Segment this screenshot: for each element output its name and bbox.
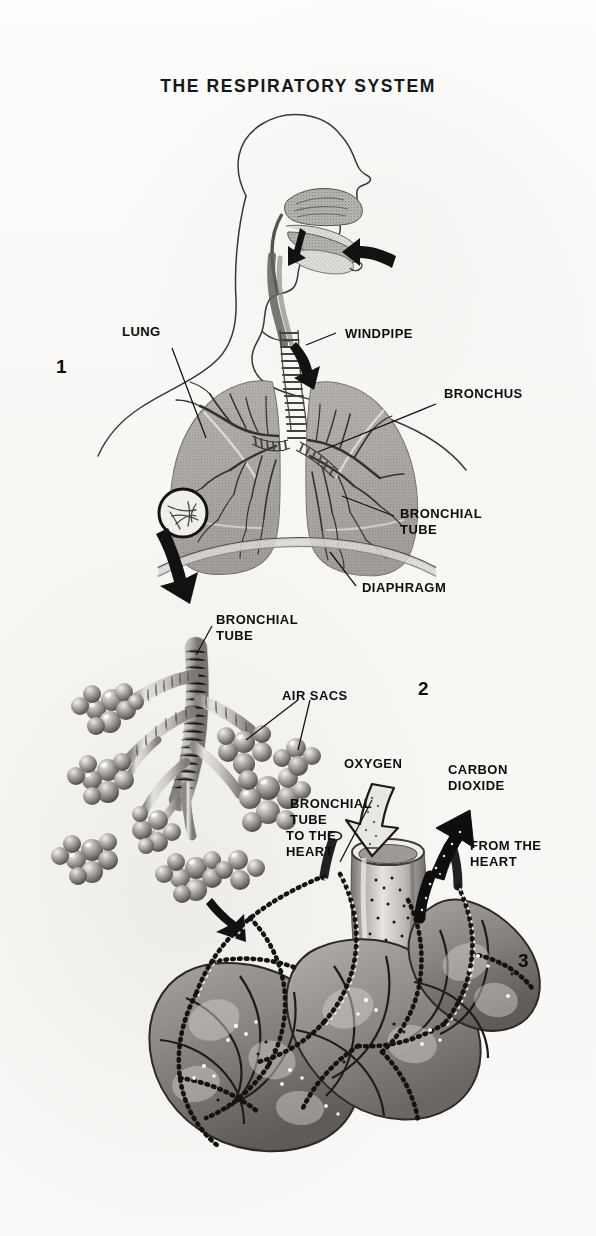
label-to-the-heart: TO THE HEART — [286, 828, 336, 859]
leader-windpipe — [306, 333, 336, 345]
label-carbon-dioxide: CARBON DIOXIDE — [448, 762, 508, 793]
label-bronchial-tube-panel3: BRONCHIAL TUBE — [290, 796, 372, 827]
label-air-sacs: AIR SACS — [282, 688, 348, 704]
label-bronchus: BRONCHUS — [444, 386, 523, 402]
label-diaphragm: DIAPHRAGM — [362, 580, 446, 596]
label-bronchial-tube-panel1: BRONCHIAL TUBE — [400, 506, 482, 537]
alveolar-sacs — [149, 899, 540, 1151]
panel-number-1: 1 — [56, 356, 67, 378]
panel-number-2: 2 — [418, 678, 429, 700]
label-oxygen: OXYGEN — [344, 756, 402, 772]
label-from-the-heart: FROM THE HEART — [470, 838, 541, 869]
leader-air-sacs-a — [246, 700, 298, 740]
flow-arrow-panel2-to-3 — [206, 898, 246, 942]
leader-lung — [172, 348, 206, 438]
label-windpipe: WINDPIPE — [345, 326, 413, 342]
label-lung: LUNG — [122, 324, 161, 340]
label-bronchial-tube-panel2: BRONCHIAL TUBE — [216, 612, 298, 643]
respiratory-system-figure: THE RESPIRATORY SYSTEM — [0, 0, 596, 1236]
panel-number-3: 3 — [518, 950, 529, 972]
